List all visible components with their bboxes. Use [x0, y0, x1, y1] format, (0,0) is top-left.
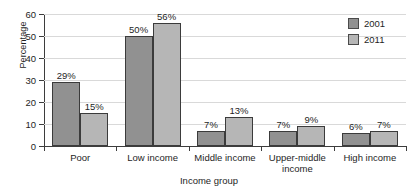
legend-item-2001[interactable]: 2001 — [348, 18, 385, 29]
bar[interactable] — [52, 82, 80, 146]
bar-pair: 29%15% — [44, 14, 116, 146]
bar-column[interactable]: 56% — [153, 14, 181, 146]
bar-column[interactable]: 50% — [125, 14, 153, 146]
bar-pair: 50%56% — [116, 14, 188, 146]
x-axis-line — [44, 146, 406, 147]
bar-group: 7%13% — [189, 14, 261, 146]
x-tick-mark — [116, 146, 117, 151]
x-category-label: Poor — [44, 152, 116, 163]
bar-value-label: 13% — [219, 105, 259, 116]
x-tick-mark — [189, 146, 190, 151]
bar[interactable] — [153, 23, 181, 146]
bar-column[interactable]: 29% — [52, 14, 80, 146]
x-category-label: High income — [334, 152, 406, 163]
y-tick-label: 10 — [10, 119, 36, 130]
bar-group: 29%15% — [44, 14, 116, 146]
x-category-label: Middle income — [189, 152, 261, 163]
legend-label: 2001 — [364, 18, 385, 29]
bar[interactable] — [80, 113, 108, 146]
legend-label: 2011 — [364, 34, 384, 45]
legend-swatch — [348, 18, 359, 29]
legend-item-2011[interactable]: 2011 — [348, 34, 385, 45]
bar[interactable] — [269, 131, 297, 146]
bar[interactable] — [197, 131, 225, 146]
x-category-label: Low income — [116, 152, 188, 163]
bar-group: 7%9% — [261, 14, 333, 146]
x-tick-mark — [334, 146, 335, 151]
bar-value-label: 56% — [147, 11, 187, 22]
bar[interactable] — [370, 131, 398, 146]
x-tick-mark — [44, 146, 45, 151]
bar-pair: 7%9% — [261, 14, 333, 146]
bar-value-label: 7% — [364, 119, 404, 130]
bar-column[interactable]: 7% — [269, 14, 297, 146]
y-tick-label: 30 — [10, 75, 36, 86]
bar-value-label: 9% — [291, 114, 331, 125]
bar-column[interactable]: 9% — [297, 14, 325, 146]
bar-value-label: 15% — [74, 101, 114, 112]
bar[interactable] — [342, 133, 370, 146]
bar-chart: Percentage 0102030405060 29%15%50%56%7%1… — [0, 0, 418, 190]
bar-column[interactable]: 13% — [225, 14, 253, 146]
bar-group: 50%56% — [116, 14, 188, 146]
legend-swatch — [348, 34, 359, 45]
bar-pair: 7%13% — [189, 14, 261, 146]
y-tick-label: 40 — [10, 53, 36, 64]
y-tick-label: 20 — [10, 97, 36, 108]
bar-column[interactable]: 7% — [197, 14, 225, 146]
y-tick-label: 60 — [10, 9, 36, 20]
y-tick-label: 0 — [10, 141, 36, 152]
bar[interactable] — [125, 36, 153, 146]
x-tick-mark — [406, 146, 407, 151]
y-tick-label: 50 — [10, 31, 36, 42]
legend: 20012011 — [348, 18, 385, 50]
bar[interactable] — [297, 126, 325, 146]
x-axis-title: Income group — [0, 175, 418, 186]
bar[interactable] — [225, 117, 253, 146]
x-tick-mark — [261, 146, 262, 151]
bar-column[interactable]: 15% — [80, 14, 108, 146]
x-category-label: Upper-middle income — [261, 152, 333, 174]
